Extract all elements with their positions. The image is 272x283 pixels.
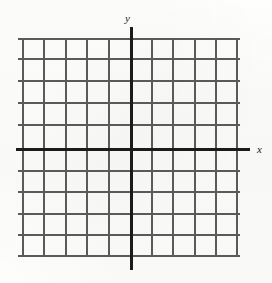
grid-line-horizontal: [18, 80, 240, 82]
grid-line-vertical: [151, 38, 153, 256]
grid-line-horizontal: [18, 38, 240, 40]
x-axis-line: [16, 148, 250, 151]
grid-line-horizontal: [18, 191, 240, 193]
x-axis-label: x: [257, 144, 262, 155]
y-axis-label: y: [125, 13, 130, 24]
coordinate-grid-figure: y x: [0, 0, 272, 283]
grid-line-vertical: [22, 38, 24, 256]
grid-line-vertical: [236, 38, 238, 256]
grid-line-horizontal: [18, 234, 240, 236]
grid-line-vertical: [65, 38, 67, 256]
grid-line-horizontal: [18, 255, 240, 257]
grid-line-vertical: [43, 38, 45, 256]
grid-line-vertical: [86, 38, 88, 256]
grid-line-vertical: [194, 38, 196, 256]
grid-line-horizontal: [18, 170, 240, 172]
grid-line-vertical: [215, 38, 217, 256]
grid-line-vertical: [172, 38, 174, 256]
grid-line-horizontal: [18, 213, 240, 215]
paper-texture: [0, 0, 272, 283]
grid-line-horizontal: [18, 124, 240, 126]
grid-line-horizontal: [18, 102, 240, 104]
grid-line-horizontal: [18, 58, 240, 60]
grid-line-vertical: [108, 38, 110, 256]
